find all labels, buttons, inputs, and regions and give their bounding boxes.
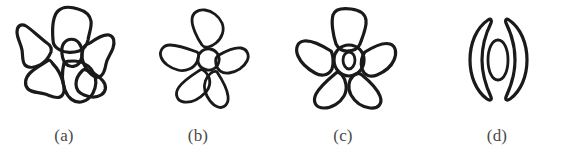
figure-panel-row: (a) (b): [0, 0, 576, 162]
flower-five-petal-ring-center-icon: [278, 0, 408, 120]
flower-six-petal-rounded-icon: [0, 0, 128, 120]
figure-caption-d: (d): [418, 126, 576, 146]
figure-caption-b: (b): [134, 126, 262, 146]
flower-profile-two-crescent-icon: [418, 0, 576, 120]
flower-five-petal-separated-icon: [134, 0, 262, 120]
figure-panel-b: (b): [134, 0, 262, 162]
figure-caption-c: (c): [278, 126, 408, 146]
figure-panel-c: (c): [278, 0, 408, 162]
figure-caption-a: (a): [0, 126, 128, 146]
figure-panel-a: (a): [0, 0, 128, 162]
figure-panel-d: (d): [418, 0, 576, 162]
